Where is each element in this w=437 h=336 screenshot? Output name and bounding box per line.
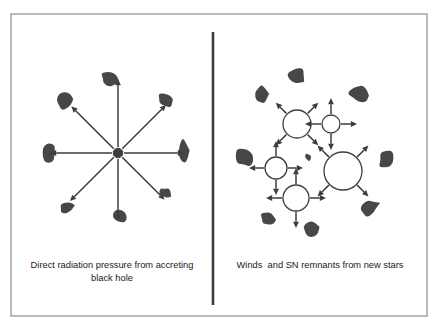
- diagram-canvas: Direct radiation pressure from accreting…: [0, 0, 437, 336]
- wind-bubble-large-right: [318, 146, 369, 197]
- wind-bubble-mid-left-circle: [265, 157, 287, 179]
- right-caption-line-0: Winds and SN remnants from new stars: [237, 260, 404, 270]
- left-caption-line-0: Direct radiation pressure from accreting: [31, 260, 194, 270]
- canvas-background: [0, 0, 437, 336]
- right-panel-caption: Winds and SN remnants from new stars: [237, 260, 404, 270]
- wind-bubble-lower-left-circle: [283, 185, 309, 211]
- black-hole-core: [113, 148, 122, 157]
- left-caption-line-1: black hole: [91, 273, 133, 283]
- wind-bubble-upper-right-circle: [322, 115, 340, 133]
- figure-root: Direct radiation pressure from accreting…: [0, 0, 437, 336]
- wind-bubble-large-right-circle: [324, 152, 362, 190]
- black-hole-core: [113, 148, 122, 157]
